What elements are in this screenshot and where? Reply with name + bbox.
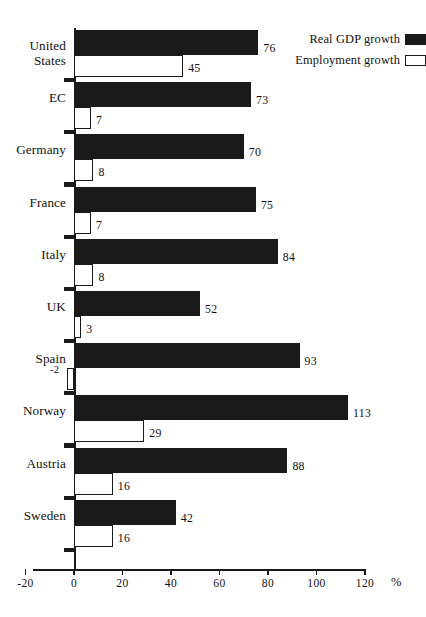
bar-employment-growth — [74, 264, 93, 286]
bar-employment-growth — [74, 316, 81, 338]
bar-value-label: 8 — [98, 270, 104, 285]
bar-real-gdp-growth — [74, 500, 176, 525]
x-axis-tick — [25, 569, 27, 575]
bar-real-gdp-growth — [74, 395, 348, 420]
bar-value-label: 3 — [86, 322, 92, 337]
bar-value-label: 29 — [149, 426, 161, 441]
bar-real-gdp-growth — [74, 448, 287, 473]
bar-employment-growth — [74, 107, 91, 129]
bar-employment-growth — [74, 212, 91, 234]
category-label: Sweden — [0, 509, 66, 524]
bar-real-gdp-growth — [74, 239, 278, 264]
x-axis-tick-label: 80 — [262, 577, 274, 589]
category-label: Italy — [0, 248, 66, 263]
bar-real-gdp-growth — [74, 30, 258, 55]
bar-value-label: 93 — [305, 354, 317, 369]
category-label: Norway — [0, 404, 66, 419]
bar-employment-growth — [74, 159, 93, 181]
bar-value-label: 113 — [353, 406, 371, 421]
x-axis-tick — [170, 569, 172, 575]
bar-value-label: 52 — [205, 302, 217, 317]
bar-value-label: 45 — [188, 61, 200, 76]
bar-chart: Real GDP growth Employment growth % -200… — [0, 0, 426, 617]
category-label: United States — [0, 39, 66, 68]
bar-employment-growth — [74, 55, 183, 77]
category-axis-tick — [64, 548, 75, 552]
x-axis-tick-label: 120 — [356, 577, 374, 589]
bar-real-gdp-growth — [74, 187, 256, 212]
category-label: UK — [0, 300, 66, 315]
bar-value-label: 42 — [181, 511, 193, 526]
category-label: Germany — [0, 143, 66, 158]
bar-value-label: 16 — [118, 479, 130, 494]
bar-value-label: -2 — [50, 364, 59, 375]
bar-value-label: 88 — [292, 459, 304, 474]
category-label: France — [0, 196, 66, 211]
bar-value-label: 73 — [256, 93, 268, 108]
x-axis-unit-label: % — [391, 575, 401, 590]
x-axis-tick-label: 100 — [307, 577, 325, 589]
bar-employment-growth — [67, 368, 74, 390]
x-axis-tick — [267, 569, 269, 575]
x-axis-tick-label: -20 — [17, 577, 34, 589]
bar-employment-growth — [74, 525, 113, 547]
bar-value-label: 7 — [96, 113, 102, 128]
x-axis-tick-label: 60 — [213, 577, 225, 589]
bar-value-label: 75 — [261, 198, 273, 213]
x-axis-tick-label: 40 — [165, 577, 177, 589]
x-axis-tick — [122, 569, 124, 575]
x-axis-tick-label: 20 — [116, 577, 128, 589]
bar-real-gdp-growth — [74, 343, 300, 368]
x-axis-tick — [219, 569, 221, 575]
bar-value-label: 84 — [283, 250, 295, 265]
x-axis-tick — [316, 569, 318, 575]
bar-value-label: 7 — [96, 218, 102, 233]
x-axis-tick — [364, 569, 366, 575]
bar-real-gdp-growth — [74, 291, 200, 316]
bar-value-label: 76 — [263, 41, 275, 56]
category-label: Austria — [0, 457, 66, 472]
bar-real-gdp-growth — [74, 134, 244, 159]
bar-value-label: 70 — [249, 145, 261, 160]
plot-area: % -20020406080100120 United States7645EC… — [0, 28, 426, 568]
bar-value-label: 8 — [98, 165, 104, 180]
category-label: EC — [0, 91, 66, 106]
bar-employment-growth — [74, 473, 113, 495]
bar-real-gdp-growth — [74, 82, 251, 107]
x-axis-tick-label: 0 — [71, 577, 77, 589]
bar-employment-growth — [74, 420, 144, 442]
x-axis-tick — [73, 569, 75, 575]
bar-value-label: 16 — [118, 531, 130, 546]
